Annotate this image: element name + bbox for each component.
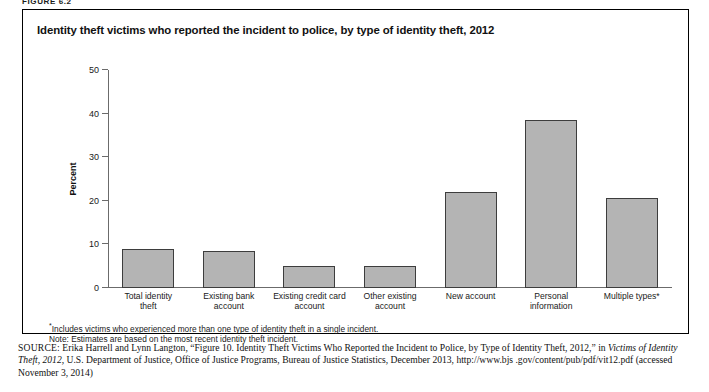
y-tick-label: 50 xyxy=(89,65,99,75)
source-citation: SOURCE: Erika Harrell and Lynn Langton, … xyxy=(18,342,693,379)
y-tick-label: 30 xyxy=(89,152,99,162)
plot-area: Percent 01020304050 xyxy=(108,70,672,288)
bar xyxy=(364,266,416,288)
bar xyxy=(122,249,174,288)
bar-series xyxy=(108,70,672,288)
bar xyxy=(283,266,335,288)
bar-slot xyxy=(591,70,672,288)
bar xyxy=(525,120,577,288)
figure-panel: Identity theft victims who reported the … xyxy=(22,9,689,334)
y-tick-label: 20 xyxy=(89,196,99,206)
bar xyxy=(203,251,255,288)
x-axis-label: Existing credit cardaccount xyxy=(269,291,350,311)
chart-title: Identity theft victims who reported the … xyxy=(37,24,494,36)
x-axis-label: Existing bankaccount xyxy=(189,291,270,311)
source-line2-post: U.S. Department of Justice, Office of Ju… xyxy=(64,354,513,365)
source-line2-pre: in xyxy=(598,342,608,353)
bar-slot xyxy=(511,70,592,288)
bar xyxy=(445,192,497,288)
footnote-text: Includes victims who experienced more th… xyxy=(52,324,379,334)
y-tick-label: 40 xyxy=(89,109,99,119)
bar-slot xyxy=(189,70,270,288)
bar-slot xyxy=(350,70,431,288)
source-line1: Erika Harrell and Lynn Langton, “Figure … xyxy=(60,342,596,353)
x-axis-label: Other existingaccount xyxy=(350,291,431,311)
footnote-line: *Includes victims who experienced more t… xyxy=(49,321,689,334)
bar-slot xyxy=(108,70,189,288)
x-axis-labels: Total identitytheftExisting bankaccountE… xyxy=(108,291,672,311)
x-axis-label: Multiple types* xyxy=(591,291,672,311)
x-axis-label: Personalinformation xyxy=(511,291,592,311)
x-axis-label: New account xyxy=(430,291,511,311)
y-tick-label: 10 xyxy=(89,239,99,249)
source-label: SOURCE: xyxy=(18,342,60,353)
figure-label: FIGURE 6.2 xyxy=(22,0,72,6)
bar-slot xyxy=(430,70,511,288)
y-tick-label: 0 xyxy=(94,283,99,293)
y-axis-title: Percent xyxy=(68,162,78,195)
x-axis-label: Total identitytheft xyxy=(108,291,189,311)
bar xyxy=(606,198,658,288)
bar-slot xyxy=(269,70,350,288)
